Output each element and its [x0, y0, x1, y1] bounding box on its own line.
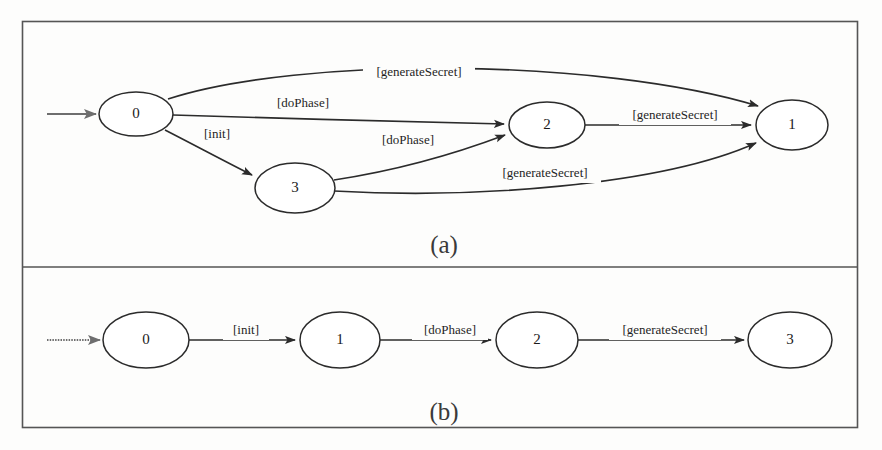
state-node-a-2[interactable]: 2	[509, 102, 585, 148]
edge-a-0-to-2	[173, 115, 504, 124]
panel-a: [generateSecret] [doPhase] [init] [doPha…	[47, 63, 828, 259]
state-label-b-1: 1	[336, 331, 344, 347]
edge-label-a-3-1: [generateSecret]	[502, 165, 587, 180]
state-label-b-3: 3	[786, 331, 794, 347]
state-node-b-1[interactable]: 1	[300, 312, 380, 368]
state-node-b-2[interactable]: 2	[496, 312, 578, 368]
state-diagram-svg: [generateSecret] [doPhase] [init] [doPha…	[0, 0, 882, 450]
figure-container: [generateSecret] [doPhase] [init] [doPha…	[0, 0, 882, 450]
state-node-a-3[interactable]: 3	[255, 163, 335, 213]
panel-caption-a: (a)	[430, 231, 458, 259]
state-node-a-0[interactable]: 0	[99, 92, 173, 136]
panel-b: [init] [doPhase] [generateSecret] 0 1 2	[47, 312, 832, 426]
edge-label-a-2-1: [generateSecret]	[632, 107, 717, 122]
panel-caption-b: (b)	[429, 398, 458, 426]
edge-label-a-3-2: [doPhase]	[382, 132, 434, 147]
edge-label-b-0-1: [init]	[233, 322, 259, 337]
panel-b-edge-labels: [init] [doPhase] [generateSecret]	[223, 322, 721, 340]
edge-label-b-1-2: [doPhase]	[424, 322, 476, 337]
state-label-b-2: 2	[533, 331, 541, 347]
state-node-a-1[interactable]: 1	[756, 100, 828, 150]
edge-label-a-0-2: [doPhase]	[277, 95, 329, 110]
state-label-a-3: 3	[291, 179, 299, 195]
edge-label-a-0-1: [generateSecret]	[376, 64, 461, 79]
state-label-a-0: 0	[132, 105, 140, 121]
edge-label-b-2-3: [generateSecret]	[622, 322, 707, 337]
state-node-b-0[interactable]: 0	[103, 312, 189, 368]
state-label-a-1: 1	[788, 116, 796, 132]
edge-label-a-0-3: [init]	[204, 126, 230, 141]
state-node-b-3[interactable]: 3	[748, 312, 832, 368]
edge-path-a-0-2	[173, 115, 504, 124]
state-label-a-2: 2	[543, 116, 551, 132]
state-label-b-0: 0	[142, 331, 150, 347]
